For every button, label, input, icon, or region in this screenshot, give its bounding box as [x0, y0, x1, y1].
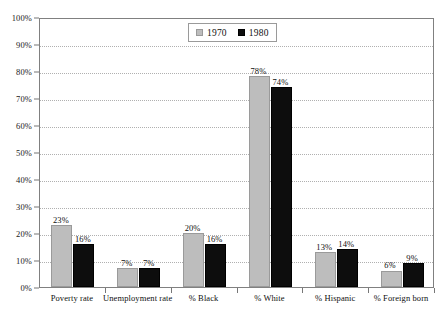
y-axis-tick-label: 30%	[16, 202, 32, 212]
y-axis-tick-label: 80%	[16, 67, 32, 77]
bar-value-label: 7%	[143, 258, 155, 268]
x-axis-category-label: % Foreign born	[359, 293, 442, 304]
plot-area	[39, 18, 434, 288]
gridline	[40, 262, 433, 263]
bar-1970-poverty-rate	[51, 225, 72, 287]
gridline	[40, 154, 433, 155]
y-axis-tick-label: 0%	[20, 283, 32, 293]
y-axis-tick-label: 100%	[12, 13, 32, 23]
bar-value-label: 16%	[207, 234, 223, 244]
bar-1970--hispanic	[315, 252, 336, 287]
y-axis-tick-label: 50%	[16, 148, 32, 158]
y-axis-tick-label: 60%	[16, 121, 32, 131]
bar-value-label: 7%	[121, 258, 133, 268]
gridline	[40, 100, 433, 101]
bar-value-label: 9%	[406, 253, 418, 263]
bar-1980--foreign-born	[403, 263, 424, 287]
bar-value-label: 14%	[338, 239, 354, 249]
bar-value-label: 20%	[185, 223, 201, 233]
x-axis-tick-mark	[434, 288, 435, 293]
legend-label-1970: 1970	[207, 28, 227, 38]
legend-swatch-1970-icon	[196, 29, 203, 36]
y-axis-tick-label: 90%	[16, 40, 32, 50]
bar-chart: 0%10%20%30%40%50%60%70%80%90%100% Povert…	[0, 0, 442, 332]
bar-value-label: 78%	[250, 66, 266, 76]
y-axis-tick-label: 20%	[16, 229, 32, 239]
bar-1980--white	[271, 87, 292, 287]
gridline	[40, 46, 433, 47]
bar-1980-unemployment-rate	[139, 268, 160, 287]
chart-legend: 1970 1980	[188, 23, 277, 42]
legend-entry-1980[interactable]: 1980	[238, 28, 269, 38]
y-axis-tick-label: 10%	[16, 256, 32, 266]
legend-swatch-1980-icon	[238, 29, 245, 36]
legend-entry-1970[interactable]: 1970	[196, 28, 227, 38]
gridline	[40, 127, 433, 128]
bar-value-label: 6%	[384, 260, 396, 270]
y-axis-tick-label: 70%	[16, 94, 32, 104]
gridline	[40, 235, 433, 236]
bar-1980--black	[205, 244, 226, 287]
bar-1970--white	[249, 76, 270, 287]
bar-1970-unemployment-rate	[117, 268, 138, 287]
bar-1970--black	[183, 233, 204, 287]
bar-value-label: 74%	[272, 77, 288, 87]
bar-1970--foreign-born	[381, 271, 402, 287]
bar-1980-poverty-rate	[73, 244, 94, 287]
bar-value-label: 13%	[316, 242, 332, 252]
legend-label-1980: 1980	[249, 28, 269, 38]
bar-value-label: 23%	[53, 215, 69, 225]
gridline	[40, 208, 433, 209]
gridline	[40, 181, 433, 182]
y-axis: 0%10%20%30%40%50%60%70%80%90%100%	[0, 0, 39, 332]
bar-1980--hispanic	[337, 249, 358, 287]
gridline	[40, 73, 433, 74]
y-axis-tick-label: 40%	[16, 175, 32, 185]
bar-value-label: 16%	[75, 234, 91, 244]
